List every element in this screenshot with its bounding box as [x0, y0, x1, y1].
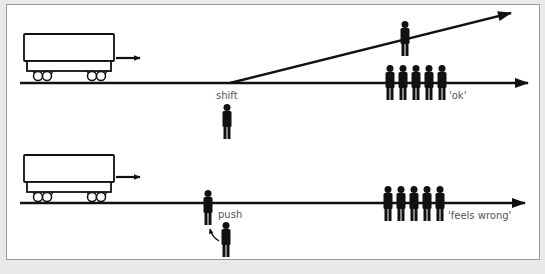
agent-person-icon	[222, 222, 231, 257]
person-icon	[425, 65, 434, 100]
verdict-label-ok: 'ok'	[449, 90, 466, 101]
action-label-push: push	[218, 209, 242, 220]
person-icon	[384, 186, 393, 221]
scenario-switch: shift 'ok'	[20, 13, 528, 139]
push-arrow	[210, 229, 219, 241]
person-icon	[438, 65, 447, 100]
trolley-diagram: shift 'ok' push 'feels wrong'	[0, 0, 545, 274]
person-icon	[410, 186, 419, 221]
side-track-arrow	[230, 13, 511, 83]
person-icon	[423, 186, 432, 221]
scenario-push: push 'feels wrong'	[20, 155, 525, 257]
pushed-person-icon	[204, 190, 213, 225]
wagon-icon	[24, 155, 114, 202]
person-icon	[386, 65, 395, 100]
person-icon	[436, 186, 445, 221]
wagon-icon	[24, 34, 114, 81]
person-icon	[397, 186, 406, 221]
verdict-label-feels-wrong: 'feels wrong'	[448, 210, 511, 221]
person-icon	[399, 65, 408, 100]
person-icon	[412, 65, 421, 100]
action-label-shift: shift	[216, 90, 238, 101]
agent-person-icon	[223, 104, 232, 139]
person-icon-side-track	[401, 21, 410, 56]
